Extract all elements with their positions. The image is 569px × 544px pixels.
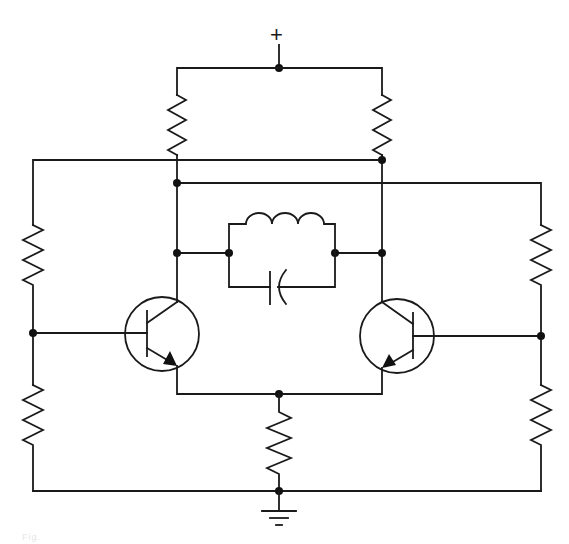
resistor-collector-left: [168, 95, 186, 155]
resistor-bias-left-lower: [23, 385, 43, 491]
ground-icon: [262, 491, 296, 525]
node-tank-left-outer: [173, 249, 181, 257]
figure-caption: Fig.: [22, 532, 41, 542]
node-left-collector: [173, 179, 181, 187]
resistor-bias-left-upper: [23, 225, 43, 385]
supply-plus-label: +: [270, 22, 283, 47]
cross-wire-left-bias: [33, 160, 382, 225]
node-right-collector: [378, 156, 386, 164]
transistor-q2-collector: [382, 302, 413, 324]
resistor-bias-right-lower: [531, 385, 551, 491]
transistor-q1-collector: [147, 302, 177, 323]
transistor-q1-envelope: [125, 297, 199, 371]
capacitor-left-lead: [229, 253, 270, 287]
node-q1-base: [29, 329, 37, 337]
emitter-bus: [177, 366, 382, 394]
inductor: [229, 213, 335, 253]
cross-wire-right-bias: [177, 183, 541, 225]
resistor-bias-right-upper: [531, 225, 551, 385]
resistor-collector-right: [373, 95, 391, 155]
top-rail: [177, 68, 382, 95]
node-tank-right-outer: [378, 249, 386, 257]
resistor-emitter: [267, 394, 291, 491]
node-q2-base: [537, 332, 545, 340]
circuit-diagram: +: [0, 0, 569, 544]
